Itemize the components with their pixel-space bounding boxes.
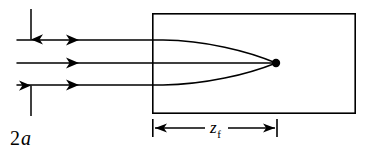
focal-distance-label: zf (209, 118, 221, 140)
upper-ray-path (17, 40, 276, 63)
focal-distance-symbol: z (209, 118, 217, 137)
focal-distance-subscript: f (217, 128, 221, 140)
aperture-label-symbol: a (21, 127, 31, 149)
lower-ray-path (17, 63, 276, 85)
beam-focusing-diagram: zf 2a (0, 0, 375, 158)
aperture-label-number: 2 (10, 127, 20, 149)
aperture-label: 2a (10, 127, 31, 149)
focal-point-dot (272, 59, 280, 67)
diagram-canvas: zf 2a (0, 0, 375, 158)
